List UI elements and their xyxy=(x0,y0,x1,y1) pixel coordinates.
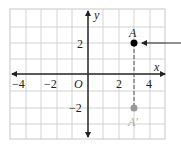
x-axis-label: x xyxy=(153,60,160,74)
x-tick-label: −2 xyxy=(44,77,57,91)
coordinate-plane: y x O −4 −2 2 4 2 −2 A A′ xyxy=(0,0,181,147)
y-tick-label: −2 xyxy=(69,101,82,115)
x-tick-label: −4 xyxy=(12,77,25,91)
point-a-prime xyxy=(131,105,138,112)
x-tick-label: 2 xyxy=(116,77,122,91)
point-a xyxy=(131,40,138,47)
y-tick-label: 2 xyxy=(77,37,83,51)
x-tick-label: 4 xyxy=(146,77,152,91)
origin-label: O xyxy=(74,77,83,91)
point-a-prime-label: A′ xyxy=(127,115,138,129)
point-a-label: A xyxy=(128,26,137,40)
y-axis-label: y xyxy=(93,8,100,22)
